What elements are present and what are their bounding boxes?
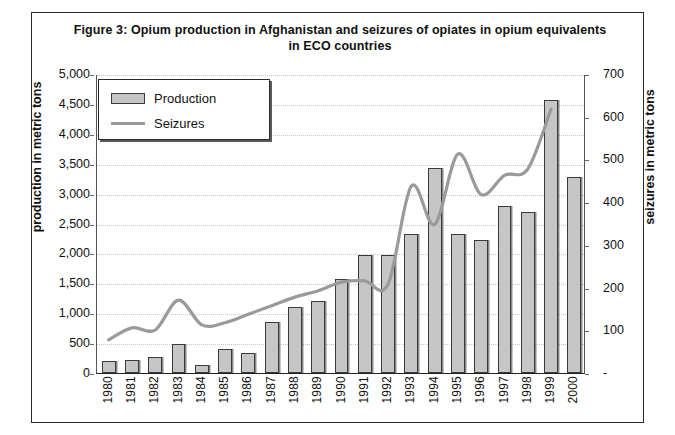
y-axis-left-tick-mark <box>90 374 94 375</box>
x-axis-tick-1991: 1991 <box>357 376 371 404</box>
y-axis-left-tick-mark <box>90 105 94 106</box>
bar-production-1981 <box>125 360 139 373</box>
x-axis-tick-1992: 1992 <box>380 376 394 404</box>
x-axis-tick-1984: 1984 <box>194 376 208 404</box>
x-axis-tick-1980: 1980 <box>101 376 115 404</box>
x-axis-tick-1993: 1993 <box>403 376 417 404</box>
gridline <box>97 165 584 166</box>
bar-production-1998 <box>521 212 535 373</box>
gridline <box>97 75 584 76</box>
bar-production-1990 <box>335 279 349 373</box>
y-axis-right-tick-mark <box>585 203 589 204</box>
x-axis-tick-1997: 1997 <box>497 376 511 404</box>
y-axis-left-tick-mark <box>90 284 94 285</box>
y-axis-right-tick-mark <box>585 331 589 332</box>
bar-production-1993 <box>404 234 418 373</box>
y-axis-right-tick-label: 400 <box>603 195 649 209</box>
bar-production-1996 <box>474 240 488 373</box>
x-axis-tick-1990: 1990 <box>334 376 348 404</box>
y-axis-right-tick-label: - <box>603 366 649 380</box>
y-axis-left-tick-label: 0 <box>20 366 90 380</box>
y-axis-left-tick-label: 500 <box>20 336 90 350</box>
x-axis-tick-labels: 1980198119821983198419851986198719881989… <box>96 376 585 424</box>
y-axis-left-tick-mark <box>90 314 94 315</box>
bar-production-1988 <box>288 307 302 373</box>
y-axis-right-tick-mark <box>585 160 589 161</box>
x-axis-tick-1999: 1999 <box>543 376 557 404</box>
x-axis-tick-1996: 1996 <box>473 376 487 404</box>
y-axis-right-tick-mark <box>585 118 589 119</box>
x-axis-tick-1994: 1994 <box>427 376 441 404</box>
y-axis-left-tick-mark <box>90 195 94 196</box>
bar-production-2000 <box>567 177 581 373</box>
legend-item-seizures: Seizures <box>111 113 205 133</box>
legend-label-production: Production <box>154 91 216 106</box>
bar-production-1985 <box>218 349 232 373</box>
bar-production-1992 <box>381 255 395 373</box>
legend-line-swatch-icon <box>111 122 145 125</box>
bar-production-1984 <box>195 365 209 373</box>
y-axis-right-tick-label: 300 <box>603 238 649 252</box>
y-axis-right-tick-label: 500 <box>603 152 649 166</box>
y-axis-left-tick-label: 4,000 <box>20 127 90 141</box>
y-axis-left-tick-mark <box>90 165 94 166</box>
x-axis-tick-1989: 1989 <box>310 376 324 404</box>
y-axis-right-tick-mark <box>585 289 589 290</box>
x-axis-tick-2000: 2000 <box>566 376 580 404</box>
x-axis-tick-1998: 1998 <box>520 376 534 404</box>
chart-legend: Production Seizures <box>98 79 270 140</box>
figure-title: Figure 3: Opium production in Afghanista… <box>70 22 610 54</box>
y-axis-right-tick-label: 200 <box>603 281 649 295</box>
x-axis-tick-1981: 1981 <box>124 376 138 404</box>
y-axis-left-tick-mark <box>90 344 94 345</box>
y-axis-left-tick-label: 3,500 <box>20 157 90 171</box>
y-axis-left-tick-label: 4,500 <box>20 97 90 111</box>
legend-item-production: Production <box>111 88 216 108</box>
bar-production-1994 <box>428 168 442 373</box>
bar-production-1980 <box>102 361 116 373</box>
x-axis-tick-1995: 1995 <box>450 376 464 404</box>
y-axis-right-tick-label: 600 <box>603 110 649 124</box>
x-axis-tick-1983: 1983 <box>171 376 185 404</box>
legend-label-seizures: Seizures <box>154 116 205 131</box>
y-axis-left-tick-mark <box>90 75 94 76</box>
x-axis-tick-1986: 1986 <box>240 376 254 404</box>
y-axis-right-tick-mark <box>585 246 589 247</box>
y-axis-left-tick-label: 5,000 <box>20 67 90 81</box>
y-axis-left-tick-label: 1,500 <box>20 276 90 290</box>
y-axis-left-ticks: 05001,0001,5002,0002,5003,0003,5004,0004… <box>16 75 90 374</box>
bar-production-1991 <box>358 255 372 373</box>
bar-production-1999 <box>544 100 558 373</box>
y-axis-left-tick-label: 2,500 <box>20 217 90 231</box>
y-axis-right-tick-mark <box>585 374 589 375</box>
bar-production-1983 <box>172 344 186 373</box>
y-axis-left-tick-label: 3,000 <box>20 187 90 201</box>
bar-production-1989 <box>311 301 325 373</box>
x-axis-tick-1985: 1985 <box>217 376 231 404</box>
bar-production-1997 <box>498 206 512 373</box>
x-axis-tick-1982: 1982 <box>147 376 161 404</box>
x-axis-tick-1987: 1987 <box>264 376 278 404</box>
bar-production-1982 <box>148 357 162 373</box>
y-axis-left-tick-label: 2,000 <box>20 246 90 260</box>
gridline <box>97 195 584 196</box>
y-axis-right-tick-mark <box>585 75 589 76</box>
legend-bar-swatch-icon <box>111 93 145 104</box>
bar-production-1987 <box>265 322 279 373</box>
y-axis-left-tick-mark <box>90 135 94 136</box>
y-axis-right-tick-label: 100 <box>603 323 649 337</box>
y-axis-left-tick-mark <box>90 225 94 226</box>
y-axis-right-ticks: -100200300400500600700 <box>589 75 659 374</box>
y-axis-left-tick-label: 1,000 <box>20 306 90 320</box>
figure-container: Figure 3: Opium production in Afghanista… <box>0 0 675 435</box>
x-axis-tick-1988: 1988 <box>287 376 301 404</box>
y-axis-left-tick-mark <box>90 254 94 255</box>
bar-production-1995 <box>451 234 465 373</box>
y-axis-right-tick-label: 700 <box>603 67 649 81</box>
bar-production-1986 <box>241 353 255 373</box>
